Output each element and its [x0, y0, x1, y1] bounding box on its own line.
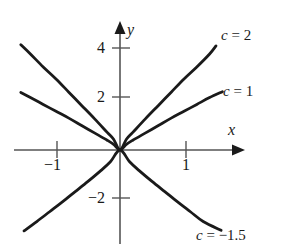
y-axis-arrowhead [115, 21, 126, 34]
curve-label-c1-var: c [223, 83, 230, 99]
curve-group [21, 45, 223, 231]
x-axis-label: x [228, 122, 235, 138]
curve-label-cneg-eq: = −1.5 [203, 227, 246, 243]
y-tick-label-4: 4 [97, 40, 105, 56]
curve-label-c2-var: c [221, 27, 228, 43]
function-graph-figure: −1 1 4 2 −2 x y c = 2 c = 1 c = −1.5 [0, 0, 300, 252]
curve-label-c2-eq: = 2 [228, 27, 251, 43]
y-tick-label--2: −2 [88, 190, 105, 206]
curve-label-c1: c = 1 [223, 84, 253, 99]
plot-canvas [0, 0, 300, 252]
curve-label-c2: c = 2 [221, 28, 251, 43]
curve-label-cneg-var: c [196, 227, 203, 243]
curve-label-c1-eq: = 1 [230, 83, 253, 99]
curve-label-cneg: c = −1.5 [196, 228, 246, 243]
x-axis-arrowhead [232, 145, 245, 156]
x-tick-label--1: −1 [44, 157, 61, 173]
x-tick-label-1: 1 [182, 157, 190, 173]
y-axis-label: y [127, 22, 134, 38]
curve-2 [21, 92, 223, 150]
y-tick-label-2: 2 [97, 89, 105, 105]
